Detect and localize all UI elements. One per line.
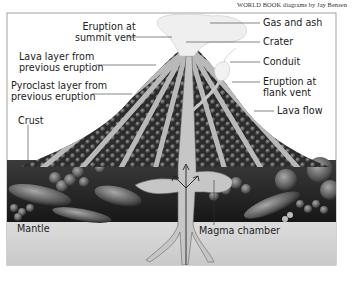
label-lava-flow: Lava flow bbox=[277, 105, 323, 116]
label-lava-layer-line2: previous eruption bbox=[19, 62, 103, 73]
label-conduit: Conduit bbox=[263, 56, 300, 67]
label-lava-layer-line1: Lava layer from bbox=[19, 51, 103, 62]
label-gas-and-ash: Gas and ash bbox=[263, 17, 322, 28]
label-pyroclast-layer-line2: previous eruption bbox=[11, 91, 107, 102]
label-flank-eruption-line2: flank vent bbox=[263, 87, 316, 98]
label-summit-eruption-line2: summit vent bbox=[75, 32, 136, 43]
label-summit-eruption-line1: Eruption at bbox=[75, 21, 136, 32]
label-crater: Crater bbox=[263, 36, 293, 47]
label-crust: Crust bbox=[18, 115, 43, 126]
label-flank-eruption-line1: Eruption at bbox=[263, 76, 316, 87]
label-flank-eruption: Eruption at flank vent bbox=[263, 76, 316, 98]
label-summit-eruption: Eruption at summit vent bbox=[75, 21, 136, 43]
label-pyroclast-layer-line1: Pyroclast layer from bbox=[11, 80, 107, 91]
volcano-diagram bbox=[0, 0, 353, 285]
label-lava-layer: Lava layer from previous eruption bbox=[19, 51, 103, 73]
label-pyroclast-layer: Pyroclast layer from previous eruption bbox=[11, 80, 107, 102]
label-magma-chamber: Magma chamber bbox=[199, 225, 280, 236]
label-mantle: Mantle bbox=[17, 223, 50, 234]
